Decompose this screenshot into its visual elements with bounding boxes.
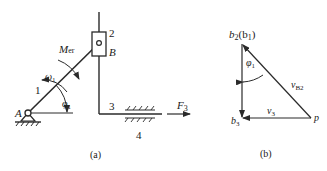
figure-b <box>242 44 311 118</box>
label-phi-a: φ1 <box>62 98 72 111</box>
label-b3: b3 <box>231 115 240 128</box>
label-4: 4 <box>136 129 142 141</box>
pivot-a-icon <box>25 110 31 116</box>
label-phi-b: φ1 <box>246 57 256 70</box>
label-force: F3 <box>176 99 188 113</box>
label-moment: Mer <box>58 43 75 55</box>
label-2: 2 <box>109 27 115 39</box>
label-1: 1 <box>35 84 41 96</box>
caption-a: (a) <box>90 149 101 161</box>
moment-mer-arc <box>58 60 79 79</box>
label-v3: v3 <box>267 105 275 118</box>
angle-phi1-arc-b <box>243 75 263 82</box>
label-omega: ω1 <box>45 71 56 84</box>
mechanism-figure: A B 1 2 3 4 Mer ω1 φ1 F3 (a) b2(b1) φ1 v… <box>0 0 327 171</box>
label-b: B <box>109 46 116 58</box>
joint-b-icon <box>97 41 102 46</box>
caption-b: (b) <box>260 148 272 160</box>
label-3: 3 <box>109 100 115 112</box>
label-b2-b1: b2(b1) <box>229 28 256 42</box>
label-p: p <box>313 112 319 123</box>
figure-a <box>15 12 190 126</box>
vector-vb2 <box>243 45 311 118</box>
label-vb2: vB2 <box>291 79 304 92</box>
label-a: A <box>14 107 22 119</box>
